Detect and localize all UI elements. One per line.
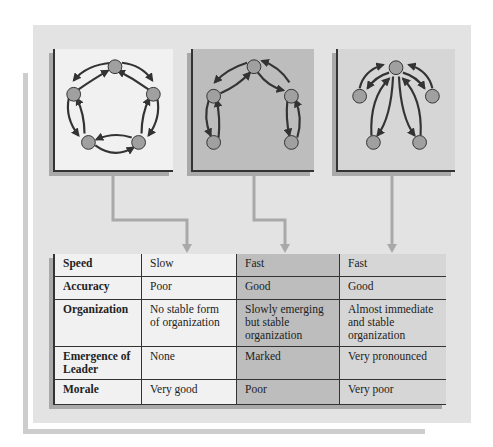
chain-network-panel — [191, 49, 314, 172]
circle-cell: Poor — [142, 277, 237, 300]
table-row-morale: Morale Very good Poor Very poor — [54, 380, 446, 405]
row-label: Accuracy — [54, 277, 142, 300]
table-row-speed: Speed Slow Fast Fast — [54, 254, 446, 277]
circle-network-panel — [53, 49, 173, 172]
row-label: Emergence of Leader — [54, 347, 142, 380]
wheel-network-diagram — [338, 49, 455, 170]
decorative-bottom-bar — [23, 429, 425, 434]
network-node — [353, 89, 367, 103]
network-node — [389, 61, 403, 75]
network-node — [367, 136, 381, 150]
chain-cell: Poor — [237, 380, 340, 405]
decorative-side-bar — [23, 73, 28, 434]
wheel-cell: Very pronounced — [340, 347, 447, 380]
circle-network-diagram — [55, 49, 173, 170]
wheel-cell: Fast — [340, 254, 447, 277]
table-row-accuracy: Accuracy Poor Good Good — [54, 277, 446, 300]
network-node — [108, 60, 122, 74]
network-node — [207, 136, 221, 150]
wheel-cell: Very poor — [340, 380, 447, 405]
chain-network-diagram — [193, 49, 314, 170]
network-node — [207, 89, 221, 103]
circle-cell: Slow — [142, 254, 237, 277]
network-node — [132, 136, 146, 150]
table-row-emergence-of-leader: Emergence of Leader None Marked Very pro… — [54, 347, 446, 380]
circle-cell: None — [142, 347, 237, 380]
network-node — [67, 87, 81, 101]
circle-cell: Very good — [142, 380, 237, 405]
network-node — [426, 89, 440, 103]
network-node — [82, 136, 96, 150]
row-label: Organization — [54, 300, 142, 347]
circle-cell: No stable form of organization — [142, 300, 237, 347]
chain-cell: Slowly emerging but stable organization — [237, 300, 340, 347]
chain-cell: Good — [237, 277, 340, 300]
wheel-network-panel — [336, 49, 455, 172]
network-node — [247, 60, 261, 74]
network-node — [146, 87, 160, 101]
network-node — [284, 136, 298, 150]
chain-cell: Marked — [237, 347, 340, 380]
wheel-cell: Good — [340, 277, 447, 300]
row-label: Speed — [54, 254, 142, 277]
network-node — [413, 136, 427, 150]
comparison-table: Speed Slow Fast Fast Accuracy Poor Good … — [53, 254, 446, 405]
chain-cell: Fast — [237, 254, 340, 277]
table-row-organization: Organization No stable form of organizat… — [54, 300, 446, 347]
row-label: Morale — [54, 380, 142, 405]
network-node — [284, 89, 298, 103]
wheel-cell: Almost immediate and stable organization — [340, 300, 447, 347]
